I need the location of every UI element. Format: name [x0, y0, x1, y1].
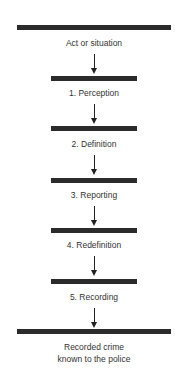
end-label-line2: known to the police	[0, 354, 182, 365]
stage-5-label: 5. Recording	[0, 292, 182, 303]
start-label: Act or situation	[0, 38, 182, 49]
arrow-down-icon	[93, 54, 95, 74]
arrow-down-icon	[93, 155, 95, 175]
stage-1-bar	[51, 76, 137, 81]
stage-2-bar	[51, 126, 137, 131]
end-bar	[17, 329, 171, 334]
stage-4-label: 4. Redefinition	[0, 240, 182, 251]
stage-5-bar	[51, 279, 137, 284]
arrow-down-icon	[93, 308, 95, 328]
end-label-line1: Recorded crime	[0, 342, 182, 353]
arrow-down-icon	[93, 104, 95, 124]
stage-4-bar	[51, 228, 137, 233]
arrow-down-icon	[93, 256, 95, 276]
start-bar	[17, 25, 171, 30]
arrow-down-icon	[93, 206, 95, 226]
stage-1-label: 1. Perception	[0, 88, 182, 99]
stage-3-label: 3. Reporting	[0, 190, 182, 201]
stage-2-label: 2. Definition	[0, 139, 182, 150]
stage-3-bar	[51, 178, 137, 183]
